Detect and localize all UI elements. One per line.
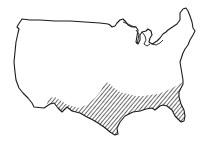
highlighted-region — [40, 80, 200, 146]
us-map — [0, 0, 208, 146]
map-container: Contiguous United States outline — [0, 0, 208, 146]
